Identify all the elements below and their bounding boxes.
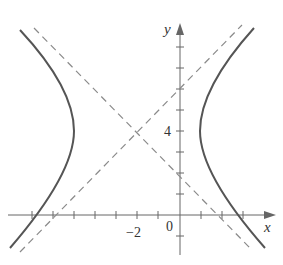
y-tick-label-4: 4 <box>164 124 171 139</box>
y-axis <box>176 23 184 255</box>
x-axis-label: x <box>263 219 271 235</box>
x-tick-label-neg2: −2 <box>126 225 141 240</box>
y-axis-arrow-icon <box>176 23 184 35</box>
y-axis-label: y <box>162 21 171 37</box>
origin-label: 0 <box>166 219 173 234</box>
x-axis-arrow-icon <box>264 211 276 219</box>
hyperbola-diagram: y x 0 −2 4 <box>0 0 283 265</box>
asymptote-falling <box>34 28 252 250</box>
